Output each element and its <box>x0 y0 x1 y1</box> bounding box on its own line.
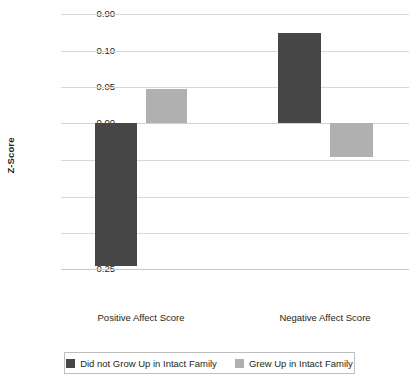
bar-positive-intact[interactable] <box>146 89 187 123</box>
category-label-negative-affect: Negative Affect Score <box>265 312 385 323</box>
bar-chart: Z-Score 0.90 0.10 0.05 0.00 -0.05 -0.10 … <box>0 0 419 383</box>
legend-label: Grew Up in Intact Family <box>249 358 353 369</box>
category-label-positive-affect: Positive Affect Score <box>81 312 201 323</box>
legend-label: Did not Grow Up in Intact Family <box>80 358 217 369</box>
bar-negative-not-intact[interactable] <box>278 33 321 123</box>
legend-item-intact[interactable]: Grew Up in Intact Family <box>235 358 353 369</box>
legend-item-not-intact[interactable]: Did not Grow Up in Intact Family <box>66 358 217 369</box>
gridline-0 <box>61 14 409 15</box>
bar-negative-intact[interactable] <box>330 123 373 157</box>
y-axis-title: Z-Score <box>5 126 16 186</box>
bar-positive-not-intact[interactable] <box>95 123 137 266</box>
legend: Did not Grow Up in Intact Family Grew Up… <box>64 352 355 374</box>
plot-area: 0.90 0.10 0.05 0.00 -0.05 -0.10 -0.15 -0… <box>61 14 409 269</box>
legend-swatch-icon <box>235 359 244 368</box>
gridline-2 <box>61 87 409 88</box>
gridline-1 <box>61 51 409 52</box>
axis-line-bottom <box>61 269 409 270</box>
legend-swatch-icon <box>66 359 75 368</box>
